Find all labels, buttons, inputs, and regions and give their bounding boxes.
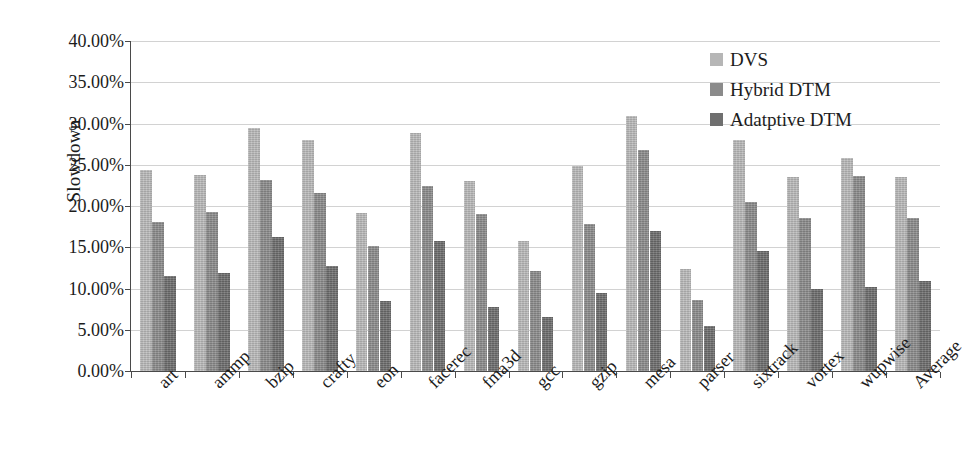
y-axis-tick-label: 30.00% <box>20 115 124 133</box>
bar <box>518 241 530 371</box>
slowdown-bar-chart: Slowdown 40.00%35.00%30.00%25.00%20.00%1… <box>0 0 978 474</box>
bar <box>368 246 380 371</box>
y-axis-tick-label: 15.00% <box>20 238 124 256</box>
bar <box>206 212 218 371</box>
bar <box>464 181 476 371</box>
bar-group <box>562 41 616 371</box>
x-axis-tick-label: parser <box>693 378 707 392</box>
bar <box>841 158 853 371</box>
bar <box>302 140 314 371</box>
bar-group <box>239 41 293 371</box>
bar <box>140 170 152 371</box>
bar <box>745 202 757 371</box>
bar <box>422 186 434 371</box>
x-axis-tick-label: sixtrack <box>747 378 761 392</box>
bar <box>248 128 260 371</box>
y-axis-tick-label: 20.00% <box>20 197 124 215</box>
bar <box>314 193 326 371</box>
legend-swatch-icon <box>710 113 723 126</box>
x-axis-tick-label: gzip <box>585 378 599 392</box>
bar <box>326 266 338 371</box>
bar-group <box>401 41 455 371</box>
y-axis-tick-label: 5.00% <box>20 321 124 339</box>
bar-group <box>455 41 509 371</box>
legend-label: Adatptive DTM <box>730 110 852 129</box>
x-axis-tick-label: mesa <box>639 378 653 392</box>
y-axis-tick-label: 40.00% <box>20 32 124 50</box>
x-axis-tick-label: wupwise <box>855 378 869 392</box>
x-axis-tick-label: Average <box>909 378 923 392</box>
bar <box>356 213 368 371</box>
x-axis-tick-label: bzip <box>262 378 276 392</box>
bar <box>626 116 638 371</box>
legend-item: DVS <box>710 44 940 74</box>
bar <box>799 218 811 371</box>
legend-label: DVS <box>730 50 768 69</box>
bar <box>530 271 542 371</box>
bar <box>476 214 488 371</box>
legend-item: Adatptive DTM <box>710 104 940 134</box>
y-axis-tick-label: 0.00% <box>20 362 124 380</box>
bar <box>410 133 422 371</box>
bar <box>164 276 176 371</box>
x-axis-tick-labels: artammpbzipcraftyeonfacerecfma3dgccgzipm… <box>131 378 940 474</box>
legend-swatch-icon <box>710 83 723 96</box>
bar-group <box>616 41 670 371</box>
bar <box>853 176 865 371</box>
bar <box>650 231 662 371</box>
bar <box>638 150 650 371</box>
bar <box>733 140 745 371</box>
x-axis-tick-label: vortex <box>801 378 815 392</box>
bar-group <box>293 41 347 371</box>
legend-swatch-icon <box>710 53 723 66</box>
y-axis-tick-label: 25.00% <box>20 156 124 174</box>
bar-group <box>347 41 401 371</box>
y-axis-tick-label: 10.00% <box>20 280 124 298</box>
bar <box>757 251 769 371</box>
x-axis-tick-label: gcc <box>532 378 546 392</box>
bar <box>680 269 692 371</box>
bar <box>584 224 596 371</box>
x-axis-tick-label: eon <box>370 378 384 392</box>
x-axis-tick-label: art <box>154 378 168 392</box>
bar <box>260 180 272 371</box>
y-axis-tick-label: 35.00% <box>20 73 124 91</box>
legend-label: Hybrid DTM <box>730 80 831 99</box>
legend-item: Hybrid DTM <box>710 74 940 104</box>
x-axis-tick-label: fma3d <box>478 378 492 392</box>
bar <box>272 237 284 371</box>
bar-group <box>131 41 185 371</box>
legend: DVSHybrid DTMAdatptive DTM <box>710 44 940 134</box>
y-axis-tick-labels: 40.00%35.00%30.00%25.00%20.00%15.00%10.0… <box>20 41 124 371</box>
bar-group <box>509 41 563 371</box>
bar <box>152 222 164 371</box>
x-axis-tick-label: facerec <box>424 378 438 392</box>
x-axis-tick-label: ammp <box>208 378 222 392</box>
bar <box>572 166 584 371</box>
x-axis-tick-label: crafty <box>316 378 330 392</box>
bar <box>692 300 704 371</box>
bar <box>194 175 206 371</box>
bar <box>434 241 446 371</box>
bar-group <box>185 41 239 371</box>
